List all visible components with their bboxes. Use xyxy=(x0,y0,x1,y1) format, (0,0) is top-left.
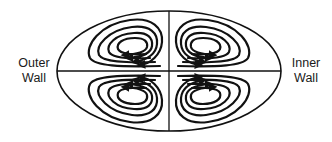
vortex-upper-left xyxy=(89,20,162,67)
flow-diagram xyxy=(0,0,332,142)
vortex-upper-right xyxy=(176,20,249,67)
vortex-lower-right xyxy=(176,76,249,123)
vortex-lower-left xyxy=(89,76,162,123)
